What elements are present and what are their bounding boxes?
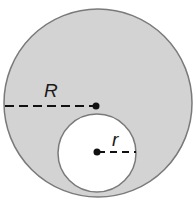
inner-center-dot — [94, 149, 101, 156]
outer-radius-label: R — [44, 80, 58, 101]
circle-diagram: R r — [0, 0, 196, 210]
outer-center-dot — [93, 103, 100, 110]
inner-radius-label: r — [112, 129, 119, 150]
